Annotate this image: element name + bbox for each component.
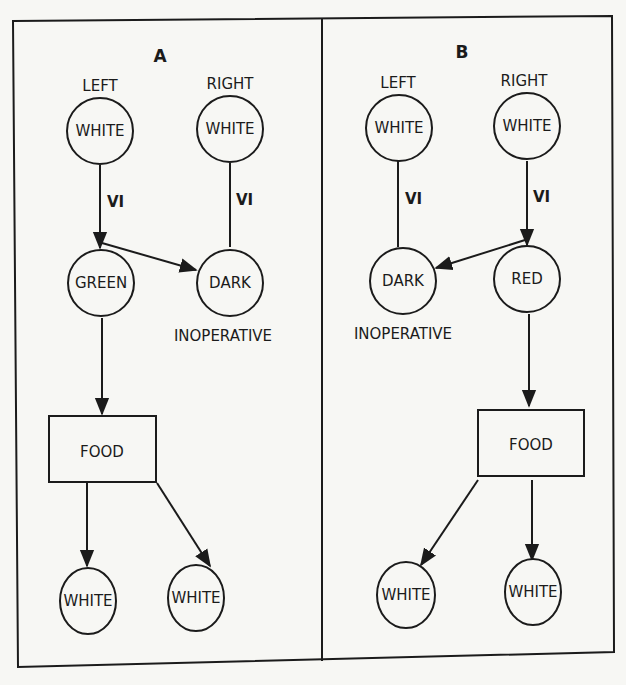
svg-text:WHITE: WHITE [75,122,124,140]
node-white-bottom-right: WHITE [168,565,224,631]
node-white-bottom-right: WHITE [505,559,561,625]
edge-label-vi-left: VI [405,190,422,208]
svg-text:WHITE: WHITE [205,120,254,138]
svg-text:FOOD: FOOD [80,443,124,461]
diagram-canvas: A LEFT RIGHT VI VI WHITE WHITE GREEN DAR… [0,0,626,685]
node-red: RED [494,246,560,312]
node-dark: DARK [197,250,263,316]
edge-label-vi-right: VI [236,191,253,209]
node-green: GREEN [68,250,134,316]
svg-text:WHITE: WHITE [171,589,220,607]
svg-text:FOOD: FOOD [509,436,553,454]
node-right-white: WHITE [494,93,560,159]
panel-title: A [153,46,167,66]
svg-text:DARK: DARK [382,272,425,290]
panel-b: B LEFT RIGHT VI VI WHITE WHITE DARK RED … [354,42,584,628]
node-white-bottom-left: WHITE [377,562,435,628]
edge-food-to-white-bottom-left [421,480,478,565]
svg-text:WHITE: WHITE [508,583,557,601]
svg-text:WHITE: WHITE [63,592,112,610]
inoperative-label: INOPERATIVE [354,325,452,343]
node-left-white: WHITE [366,95,432,161]
right-header-label: RIGHT [207,75,255,93]
edge-label-vi-right: VI [533,188,550,206]
edge-food-to-white-bottom-right [157,483,210,566]
svg-text:WHITE: WHITE [381,586,430,604]
left-header-label: LEFT [82,77,118,95]
panel-a: A LEFT RIGHT VI VI WHITE WHITE GREEN DAR… [49,46,272,634]
inoperative-label: INOPERATIVE [174,327,272,345]
node-food: FOOD [478,410,584,476]
svg-text:DARK: DARK [209,274,252,292]
svg-text:GREEN: GREEN [75,274,127,292]
node-right-white: WHITE [197,96,263,162]
svg-text:RED: RED [511,270,542,288]
svg-text:WHITE: WHITE [374,119,423,137]
node-white-bottom-left: WHITE [60,568,116,634]
svg-text:WHITE: WHITE [502,117,551,135]
node-dark: DARK [370,248,436,314]
node-left-white: WHITE [67,98,133,164]
right-header-label: RIGHT [501,72,549,90]
edge-label-vi-left: VI [107,193,124,211]
node-food: FOOD [49,416,156,482]
left-header-label: LEFT [380,74,416,92]
panel-title: B [456,42,469,62]
